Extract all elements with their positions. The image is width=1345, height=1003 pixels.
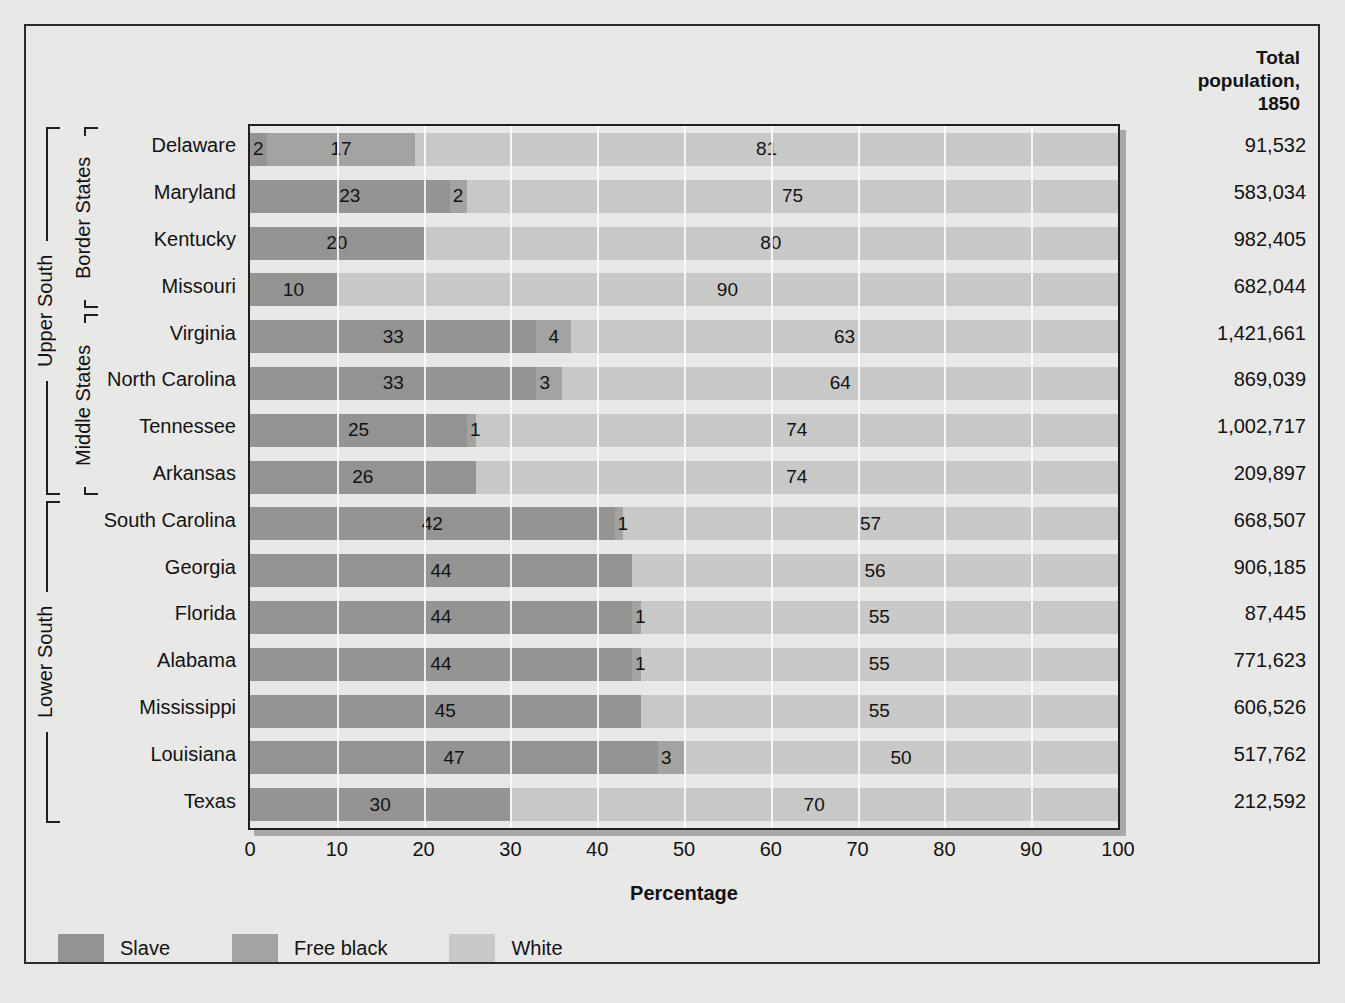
x-axis-title: Percentage — [248, 882, 1120, 905]
bar-row: 4456 — [250, 554, 1118, 587]
x-tick-80: 80 — [933, 838, 955, 861]
segment-value-label: 33 — [383, 326, 404, 348]
segment-value-label: 81 — [756, 138, 777, 160]
bracket-label-border-states: Border States — [72, 136, 98, 300]
population-value: 1,002,717 — [1136, 415, 1306, 438]
segment-value-label: 44 — [430, 653, 451, 675]
segment-value-label: 80 — [760, 232, 781, 254]
x-tick-0: 0 — [244, 838, 255, 861]
segment-value-label: 3 — [539, 372, 550, 394]
bar-row: 4555 — [250, 695, 1118, 728]
population-value: 982,405 — [1136, 228, 1306, 251]
population-value: 209,897 — [1136, 462, 1306, 485]
segment-value-label: 25 — [348, 419, 369, 441]
x-tick-60: 60 — [760, 838, 782, 861]
bar-row: 33463 — [250, 320, 1118, 353]
segment-value-label: 57 — [860, 513, 881, 535]
population-value: 906,185 — [1136, 556, 1306, 579]
population-value: 87,445 — [1136, 602, 1306, 625]
state-label-arkansas: Arkansas — [0, 462, 236, 485]
segment-value-label: 56 — [864, 560, 885, 582]
segment-value-label: 63 — [834, 326, 855, 348]
segment-value-label: 74 — [786, 419, 807, 441]
legend-item-slave: Slave — [58, 934, 170, 962]
bar-row: 23275 — [250, 180, 1118, 213]
bar-row: 3070 — [250, 788, 1118, 821]
segment-value-label: 17 — [331, 138, 352, 160]
segment-value-label: 20 — [326, 232, 347, 254]
bar-row: 44155 — [250, 648, 1118, 681]
x-tick-100: 100 — [1101, 838, 1134, 861]
bar-row: 25174 — [250, 414, 1118, 447]
segment-value-label: 55 — [869, 606, 890, 628]
population-value: 583,034 — [1136, 181, 1306, 204]
state-label-louisiana: Louisiana — [0, 743, 236, 766]
segment-value-label: 47 — [443, 747, 464, 769]
segment-value-label: 90 — [717, 279, 738, 301]
bracket-label-middle-states: Middle States — [72, 323, 98, 487]
population-value: 606,526 — [1136, 696, 1306, 719]
x-tick-90: 90 — [1020, 838, 1042, 861]
population-value: 668,507 — [1136, 509, 1306, 532]
state-label-delaware: Delaware — [0, 134, 236, 157]
population-value: 869,039 — [1136, 368, 1306, 391]
population-value: 212,592 — [1136, 790, 1306, 813]
segment-value-label: 42 — [422, 513, 443, 535]
bar-row: 21781 — [250, 133, 1118, 166]
legend-label: Free black — [294, 937, 387, 960]
bracket-label-lower-south: Lower South — [34, 592, 60, 732]
segment-value-label: 10 — [283, 279, 304, 301]
segment-value-label: 33 — [383, 372, 404, 394]
segment-value-label: 1 — [470, 419, 481, 441]
population-value: 771,623 — [1136, 649, 1306, 672]
segment-value-label: 3 — [661, 747, 672, 769]
state-label-tennessee: Tennessee — [0, 415, 236, 438]
state-label-georgia: Georgia — [0, 556, 236, 579]
segment-value-label: 50 — [890, 747, 911, 769]
state-label-maryland: Maryland — [0, 181, 236, 204]
population-value: 517,762 — [1136, 743, 1306, 766]
segment-value-label: 26 — [352, 466, 373, 488]
x-tick-70: 70 — [846, 838, 868, 861]
x-tick-10: 10 — [326, 838, 348, 861]
legend-swatch — [232, 934, 278, 962]
population-value: 91,532 — [1136, 134, 1306, 157]
segment-value-label: 74 — [786, 466, 807, 488]
bar-row: 2674 — [250, 461, 1118, 494]
segment-value-label: 45 — [435, 700, 456, 722]
x-tick-30: 30 — [499, 838, 521, 861]
legend-item-white: White — [449, 934, 562, 962]
legend: SlaveFree blackWhite — [58, 934, 625, 962]
population-value: 1,421,661 — [1136, 322, 1306, 345]
plot-area: 2178123275208010903346333364251742674421… — [248, 124, 1120, 830]
state-label-south-carolina: South Carolina — [0, 509, 236, 532]
legend-swatch — [58, 934, 104, 962]
bar-row: 2080 — [250, 227, 1118, 260]
bar-row: 44155 — [250, 601, 1118, 634]
legend-label: White — [511, 937, 562, 960]
segment-value-label: 2 — [453, 185, 464, 207]
segment-value-label: 1 — [635, 653, 646, 675]
segment-value-label: 1 — [618, 513, 629, 535]
segment-value-label: 64 — [830, 372, 851, 394]
segment-value-label: 23 — [339, 185, 360, 207]
segment-value-label: 44 — [430, 606, 451, 628]
bar-row: 47350 — [250, 741, 1118, 774]
x-tick-40: 40 — [586, 838, 608, 861]
segment-value-label: 44 — [430, 560, 451, 582]
bar-row: 42157 — [250, 507, 1118, 540]
segment-value-label: 2 — [253, 138, 264, 160]
segment-value-label: 4 — [549, 326, 560, 348]
segment-value-label: 75 — [782, 185, 803, 207]
figure-frame: Total population, 1850 Upper SouthBorder… — [24, 24, 1320, 964]
x-axis-ticks: 0102030405060708090100 — [248, 838, 1120, 872]
segment-value-label: 1 — [635, 606, 646, 628]
figure-page: Total population, 1850 Upper SouthBorder… — [0, 0, 1345, 1003]
bracket-label-upper-south: Upper South — [34, 241, 60, 381]
total-population-header: Total population, 1850 — [1120, 46, 1300, 115]
legend-swatch — [449, 934, 495, 962]
bar-row: 33364 — [250, 367, 1118, 400]
x-tick-50: 50 — [673, 838, 695, 861]
segment-value-label: 30 — [370, 794, 391, 816]
segment-value-label: 70 — [804, 794, 825, 816]
